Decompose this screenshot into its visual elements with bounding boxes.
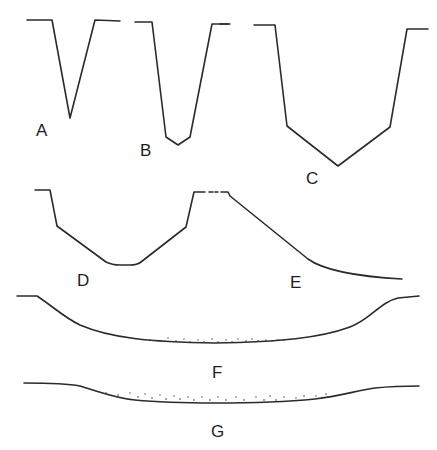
profile-g-label: G [211, 422, 224, 441]
valley-profiles-diagram: A B C D E [0, 0, 437, 450]
profile-g-sediment [105, 392, 327, 401]
profile-e-label: E [290, 273, 301, 292]
profile-e-line [221, 192, 402, 279]
profile-f-label: F [212, 363, 222, 382]
profile-a: A [27, 20, 120, 140]
profile-g-line [24, 383, 419, 403]
profile-d-label: D [77, 271, 89, 290]
profile-g: G [24, 383, 419, 441]
profile-c: C [220, 24, 428, 188]
profile-a-line [27, 20, 120, 118]
profile-b-line [135, 22, 230, 145]
profile-f-line [17, 296, 419, 343]
profile-d: D [35, 190, 213, 290]
profile-a-label: A [36, 121, 48, 140]
profile-f: F [17, 296, 419, 382]
profile-c-label: C [306, 169, 318, 188]
profile-c-line [254, 25, 428, 166]
profile-b-label: B [140, 141, 151, 160]
profile-b: B [135, 22, 230, 160]
profile-d-line [35, 190, 205, 265]
profile-e: E [215, 192, 402, 292]
